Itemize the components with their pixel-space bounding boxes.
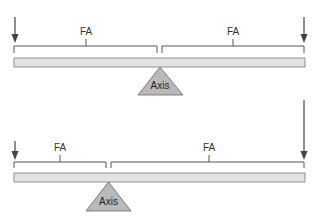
top-lever: FA FA Axis <box>12 17 308 95</box>
lever-diagrams: FA FA Axis FA <box>0 0 320 220</box>
left-force-arm-bracket: FA <box>14 142 106 168</box>
bottom-lever: FA FA Axis <box>12 100 308 211</box>
fulcrum-label: Axis <box>99 196 118 207</box>
right-force-arrow-icon <box>301 17 308 43</box>
right-force-arm-label: FA <box>227 26 240 37</box>
fulcrum-triangle: Axis <box>86 182 131 211</box>
right-force-arm-label: FA <box>203 142 216 153</box>
left-force-arm-label: FA <box>54 142 67 153</box>
fulcrum-label: Axis <box>151 80 170 91</box>
right-force-arm-bracket: FA <box>162 26 304 53</box>
fulcrum-triangle: Axis <box>138 67 183 95</box>
lever-beam <box>14 58 305 67</box>
left-force-arm-label: FA <box>80 26 93 37</box>
left-force-arrow-icon <box>12 141 19 160</box>
right-force-arm-bracket: FA <box>111 142 304 168</box>
right-force-arrow-long-icon <box>301 100 308 160</box>
lever-beam <box>14 173 305 182</box>
left-force-arm-bracket: FA <box>14 26 157 53</box>
left-force-arrow-icon <box>12 17 19 43</box>
